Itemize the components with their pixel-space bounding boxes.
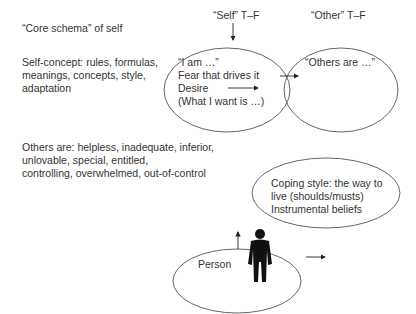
person-ellipse [173, 249, 301, 313]
self-ellipse-line-3: Desire [178, 82, 208, 95]
self-concept-line-3: adaptation [22, 82, 71, 95]
core-schema-label: “Core schema” of self [22, 22, 122, 35]
others-are-line-2: unlovable, special, entitled, [22, 154, 148, 167]
person-silhouette-icon [248, 229, 272, 282]
coping-line-3: Instrumental beliefs [271, 203, 362, 216]
person-label: Person [198, 258, 231, 271]
self-ellipse-line-2: Fear that drives it [178, 69, 259, 82]
other-tf-label: “Other” T–F [311, 9, 366, 22]
coping-line-2: live (shoulds/musts) [271, 190, 364, 203]
self-tf-label: “Self” T–F [213, 9, 259, 22]
self-ellipse-line-4: (What I want is …) [178, 95, 264, 108]
self-concept-line-1: Self-concept: rules, formulas, [22, 56, 158, 69]
others-are-line-3: controlling, overwhelmed, out-of-control [22, 167, 206, 180]
self-concept-line-2: meanings, concepts, style, [22, 69, 146, 82]
others-are-line-1: Others are: helpless, inadequate, inferi… [22, 141, 214, 154]
other-ellipse-line-1: “Others are …” [305, 56, 375, 69]
coping-line-1: Coping style: the way to [271, 177, 382, 190]
self-ellipse-line-1: “I am …” [178, 56, 219, 69]
